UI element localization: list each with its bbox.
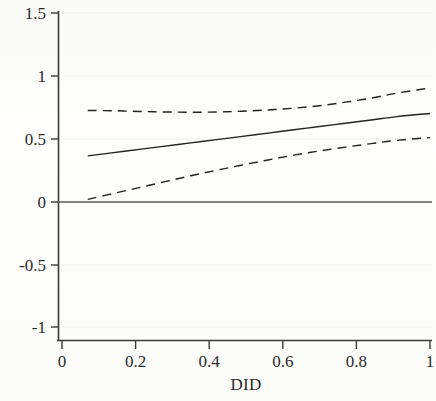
x-tick-label-1: 1 bbox=[426, 353, 435, 370]
lower-confidence-bound bbox=[88, 138, 430, 200]
data-curves bbox=[88, 88, 430, 199]
x-axis-ticks bbox=[62, 341, 430, 349]
x-tick-label-0.2: 0.2 bbox=[125, 353, 146, 370]
y-tick-label-1.5: 1.5 bbox=[0, 5, 46, 22]
gridlines bbox=[62, 13, 432, 327]
x-tick-label-0.6: 0.6 bbox=[272, 353, 293, 370]
y-tick-label-minus0.5: -0.5 bbox=[0, 257, 46, 274]
x-tick-label-0.8: 0.8 bbox=[346, 353, 367, 370]
point-estimate bbox=[88, 113, 430, 155]
plot-area bbox=[0, 0, 436, 401]
y-tick-label-0: 0 bbox=[0, 194, 46, 211]
y-axis-ticks bbox=[51, 13, 58, 327]
y-tick-label-1: 1 bbox=[0, 68, 46, 85]
y-tick-label-minus1: -1 bbox=[0, 319, 46, 336]
upper-confidence-bound bbox=[88, 88, 430, 112]
x-axis-title: DID bbox=[230, 375, 261, 395]
figure-canvas: 1.5 1 0.5 0 -0.5 -1 0 0.2 0.4 0.6 0.8 1 … bbox=[0, 0, 436, 401]
y-tick-label-0.5: 0.5 bbox=[0, 131, 46, 148]
x-tick-label-0.4: 0.4 bbox=[199, 353, 220, 370]
x-tick-label-0: 0 bbox=[58, 353, 67, 370]
